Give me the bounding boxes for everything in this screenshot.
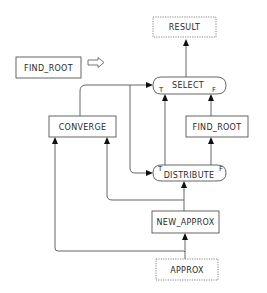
dataflow-diagram: RESULT FIND_ROOT T SELECT F CONVERGE FIN…	[0, 0, 267, 293]
edge-converge-select	[80, 85, 147, 116]
node-result: RESULT	[153, 17, 216, 37]
node-converge: CONVERGE	[49, 116, 116, 137]
new-approx-label: NEW_APPROX	[157, 218, 215, 227]
approx-label: APPROX	[170, 266, 204, 275]
select-false-port: F	[212, 86, 216, 94]
node-find-root-title: FIND_ROOT	[16, 57, 81, 78]
edge-approx-converge	[55, 143, 185, 252]
edge-converge-distribute	[130, 85, 147, 173]
hollow-right-arrow-icon	[88, 58, 104, 68]
node-new-approx: NEW_APPROX	[152, 211, 219, 233]
arrowhead	[208, 137, 214, 144]
node-select: T SELECT F	[153, 77, 226, 94]
result-label: RESULT	[169, 23, 201, 32]
find-root-title-label: FIND_ROOT	[24, 64, 73, 73]
arrowhead	[162, 94, 168, 101]
select-true-port: T	[158, 86, 164, 94]
arrowhead	[146, 82, 153, 88]
converge-label: CONVERGE	[59, 123, 107, 132]
distribute-label: DISTRIBUTE	[164, 171, 215, 180]
arrowhead	[52, 137, 58, 144]
node-find-root: FIND_ROOT	[186, 116, 248, 137]
arrowhead	[104, 137, 110, 144]
select-label: SELECT	[172, 81, 204, 90]
node-approx: APPROX	[156, 259, 218, 280]
distribute-true-port: T	[157, 165, 163, 173]
arrowhead	[183, 39, 189, 46]
arrowhead	[146, 170, 153, 176]
arrowhead	[181, 181, 187, 188]
arrowhead	[208, 94, 214, 101]
arrowhead	[182, 233, 188, 240]
find-root-label: FIND_ROOT	[193, 123, 242, 132]
distribute-false-port: F	[219, 165, 223, 173]
node-distribute: T DISTRIBUTE F	[153, 165, 226, 181]
